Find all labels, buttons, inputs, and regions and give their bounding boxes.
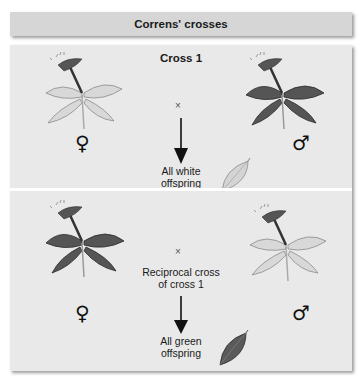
male-symbol: ♂ bbox=[292, 131, 310, 155]
white-plant-icon bbox=[32, 53, 132, 133]
crosses-panel: Cross 1 × bbox=[10, 45, 352, 371]
male-symbol: ♂ bbox=[292, 301, 310, 325]
figure-title-bar: Correns' crosses bbox=[10, 12, 352, 36]
white-leaf-icon bbox=[218, 157, 254, 197]
down-arrow-icon bbox=[174, 296, 188, 334]
figure-title: Correns' crosses bbox=[134, 18, 228, 30]
reciprocal-caption: Reciprocal cross of cross 1 bbox=[128, 266, 234, 290]
cross-2-result-line1: All green bbox=[138, 335, 224, 347]
female-symbol: ♀ bbox=[75, 131, 90, 155]
reciprocal-caption-line1: Reciprocal cross bbox=[128, 266, 234, 278]
cross-1-result: All white offspring bbox=[138, 165, 224, 189]
down-arrow-icon bbox=[174, 118, 188, 164]
reciprocal-caption-line2: of cross 1 bbox=[128, 278, 234, 290]
cross-1-result-line1: All white bbox=[138, 165, 224, 177]
white-plant-icon bbox=[236, 205, 336, 285]
green-plant-icon bbox=[232, 53, 332, 133]
green-leaf-icon bbox=[216, 329, 252, 369]
cross-2-result: All green offspring bbox=[138, 335, 224, 359]
cross-1-multiply-symbol: × bbox=[175, 100, 181, 111]
green-plant-icon bbox=[32, 201, 132, 281]
female-symbol: ♀ bbox=[75, 301, 90, 325]
section-divider bbox=[10, 188, 352, 191]
cross-2-result-line2: offspring bbox=[138, 347, 224, 359]
cross-2-multiply-symbol: × bbox=[175, 246, 181, 257]
